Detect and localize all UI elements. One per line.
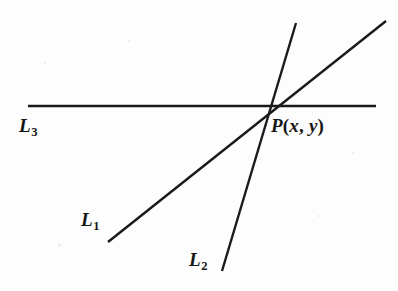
point-label-y: y <box>309 115 318 136</box>
line-label-L1-subscript: 1 <box>93 219 99 233</box>
line-label-L3-base: L <box>19 115 31 136</box>
line-label-L3: L3 <box>19 116 38 138</box>
line-label-L2-subscript: 2 <box>201 259 207 273</box>
point-label-comma: , <box>299 115 309 136</box>
point-label-base: P <box>271 115 283 136</box>
figure-canvas <box>0 0 398 291</box>
line-L2 <box>222 23 296 271</box>
line-label-L2-base: L <box>189 249 201 270</box>
geometry-figure: L3 L1 L2 P(x, y) <box>0 0 398 291</box>
point-label-close-paren: ) <box>318 115 325 136</box>
line-L1 <box>108 21 386 242</box>
point-label-x: x <box>289 115 299 136</box>
point-label-P: P(x, y) <box>271 116 324 135</box>
line-label-L2: L2 <box>189 250 208 272</box>
line-label-L1: L1 <box>81 210 100 232</box>
line-label-L1-base: L <box>81 209 93 230</box>
line-label-L3-subscript: 3 <box>31 125 37 139</box>
